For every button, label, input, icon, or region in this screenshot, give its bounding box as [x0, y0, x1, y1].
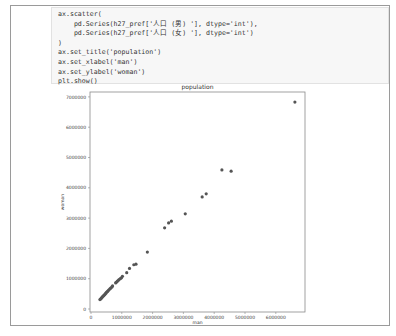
y-axis-ticks: 0100000020000003000000400000050000006000… [66, 95, 90, 312]
data-point [205, 192, 208, 195]
x-axis-ticks: 0100000020000003000000400000050000006000… [90, 312, 286, 320]
y-tick-label: 6000000 [66, 125, 86, 130]
x-tick-label: 5000000 [235, 315, 255, 320]
data-point [293, 100, 296, 103]
data-point [132, 263, 135, 266]
data-point [125, 271, 128, 274]
data-point [230, 170, 233, 173]
data-point [184, 212, 187, 215]
y-tick-label: 1000000 [66, 276, 86, 281]
x-tick-label: 0 [90, 315, 93, 320]
scatter-chart: population man woman 0100000020000003000… [0, 0, 396, 336]
data-point [220, 168, 223, 171]
x-tick-label: 6000000 [266, 315, 286, 320]
data-point [167, 221, 170, 224]
y-axis-label: woman [60, 194, 65, 211]
x-axis-label: man [193, 320, 203, 325]
data-point [128, 267, 131, 270]
chart-title: population [182, 83, 214, 91]
data-point [170, 220, 173, 223]
data-point [98, 298, 101, 301]
data-point [114, 281, 117, 284]
y-tick-label: 0 [83, 307, 86, 312]
x-tick-label: 3000000 [173, 315, 193, 320]
y-tick-label: 4000000 [66, 185, 86, 190]
y-tick-label: 2000000 [66, 246, 86, 251]
x-tick-label: 1000000 [112, 315, 132, 320]
plot-canvas: population man woman 0100000020000003000… [0, 0, 396, 336]
y-tick-label: 3000000 [66, 216, 86, 221]
data-point [201, 195, 204, 198]
x-tick-label: 2000000 [143, 315, 163, 320]
y-tick-label: 7000000 [66, 95, 86, 100]
y-tick-label: 5000000 [66, 155, 86, 160]
data-point [163, 226, 166, 229]
data-point [146, 250, 149, 253]
x-tick-label: 4000000 [204, 315, 224, 320]
